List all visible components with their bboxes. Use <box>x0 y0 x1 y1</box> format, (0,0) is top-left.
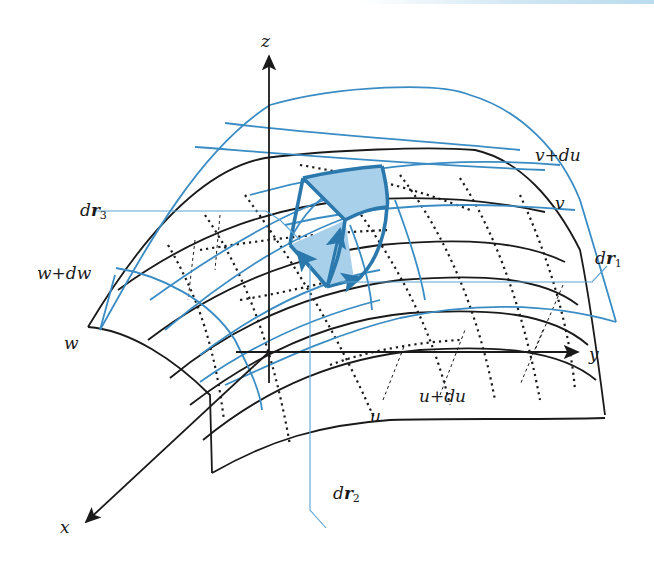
u-plus-du-label: u+du <box>419 388 466 405</box>
dr2-label: dr2 <box>333 485 360 504</box>
figure-canvas: z y x v+du v w+dw w u u+du dr3 dr1 dr2 <box>0 0 654 566</box>
z-axis-label: z <box>261 33 270 50</box>
v-label: v <box>555 195 565 212</box>
dr1-label: dr1 <box>595 250 622 269</box>
dr3-label: dr3 <box>80 202 107 221</box>
y-axis-label: y <box>589 346 599 363</box>
w-surface-bottom-edge <box>212 418 605 473</box>
x-axis-label: x <box>60 519 70 536</box>
volume-element <box>290 166 387 287</box>
v-plus-dv-label: v+du <box>535 147 581 164</box>
x-axis <box>86 352 269 522</box>
w-surface-left-edge <box>88 327 212 473</box>
surface-diagram <box>0 0 654 566</box>
w-plus-dw-label: w+dw <box>37 265 91 282</box>
w-label: w <box>64 335 79 352</box>
axes <box>86 56 578 522</box>
dr1-leader <box>340 266 607 282</box>
u-label: u <box>370 408 381 425</box>
